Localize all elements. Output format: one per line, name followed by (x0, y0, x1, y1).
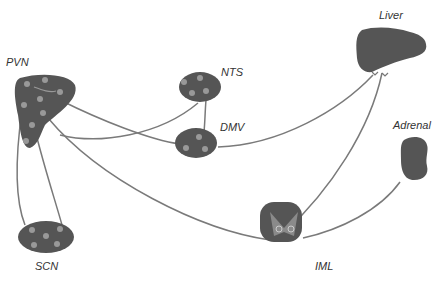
liver-organ (356, 28, 426, 73)
connection-dmv-liver (218, 75, 373, 147)
label-liver: Liver (379, 9, 403, 21)
connection-nts-pvn (60, 103, 198, 139)
dmv-nucleus (175, 128, 217, 158)
label-nts: NTS (221, 66, 243, 78)
label-iml: IML (315, 260, 333, 272)
diagram-canvas (0, 0, 443, 284)
label-adrenal: Adrenal (393, 119, 431, 131)
label-pvn: PVN (6, 56, 29, 68)
label-scn: SCN (35, 260, 58, 272)
label-dmv: DMV (220, 121, 244, 133)
connection-iml-adrenal (303, 182, 400, 238)
connection-nts-dmv (204, 100, 206, 132)
connection-scn-pvn (35, 130, 62, 225)
adrenal-organ (401, 137, 428, 180)
connection-pvn-iml (48, 118, 270, 240)
